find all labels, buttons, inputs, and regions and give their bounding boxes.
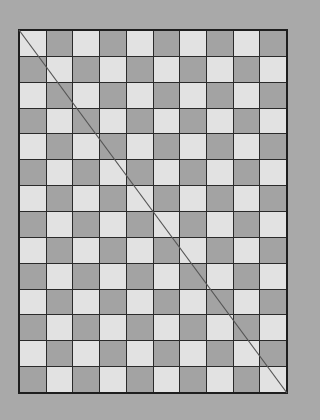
board-cell-r2-c2[interactable] [47,57,73,82]
board-cell-r13-c6[interactable] [154,341,180,366]
board-cell-r6-c3[interactable] [73,160,99,185]
board-cell-r10-c5[interactable] [127,264,153,289]
board-cell-r8-c3[interactable] [73,212,99,237]
board-cell-r10-c3[interactable] [73,264,99,289]
board-cell-r7-c5[interactable] [127,186,153,211]
board-cell-r4-c9[interactable] [234,109,260,134]
board-cell-r5-c4[interactable] [100,134,126,159]
board-cell-r4-c6[interactable] [154,109,180,134]
board-cell-r4-c7[interactable] [180,109,206,134]
board-cell-r11-c9[interactable] [234,290,260,315]
board-cell-r9-c4[interactable] [100,238,126,263]
board-cell-r13-c1[interactable] [20,341,46,366]
board-cell-r8-c5[interactable] [127,212,153,237]
board-cell-r13-c10[interactable] [260,341,286,366]
board-cell-r1-c10[interactable] [260,31,286,56]
board-cell-r5-c2[interactable] [47,134,73,159]
board-cell-r13-c7[interactable] [180,341,206,366]
board-cell-r3-c1[interactable] [20,83,46,108]
board-cell-r1-c8[interactable] [207,31,233,56]
board-cell-r5-c7[interactable] [180,134,206,159]
board-cell-r10-c10[interactable] [260,264,286,289]
board-cell-r9-c7[interactable] [180,238,206,263]
board-cell-r13-c9[interactable] [234,341,260,366]
board-cell-r8-c4[interactable] [100,212,126,237]
board-cell-r2-c10[interactable] [260,57,286,82]
board-cell-r6-c8[interactable] [207,160,233,185]
board-cell-r8-c7[interactable] [180,212,206,237]
board-cell-r5-c6[interactable] [154,134,180,159]
board-cell-r12-c1[interactable] [20,315,46,340]
board-cell-r7-c3[interactable] [73,186,99,211]
board-cell-r12-c10[interactable] [260,315,286,340]
board-cell-r12-c8[interactable] [207,315,233,340]
board-cell-r10-c6[interactable] [154,264,180,289]
board-cell-r3-c10[interactable] [260,83,286,108]
board-cell-r1-c4[interactable] [100,31,126,56]
board-cell-r4-c1[interactable] [20,109,46,134]
board-cell-r12-c5[interactable] [127,315,153,340]
board-cell-r9-c3[interactable] [73,238,99,263]
board-cell-r11-c6[interactable] [154,290,180,315]
board-cell-r3-c2[interactable] [47,83,73,108]
board-cell-r14-c4[interactable] [100,367,126,392]
board-cell-r9-c2[interactable] [47,238,73,263]
board-cell-r5-c10[interactable] [260,134,286,159]
board-cell-r10-c7[interactable] [180,264,206,289]
board-cell-r12-c9[interactable] [234,315,260,340]
board-cell-r6-c4[interactable] [100,160,126,185]
board-cell-r2-c6[interactable] [154,57,180,82]
board-cell-r2-c5[interactable] [127,57,153,82]
board-cell-r6-c7[interactable] [180,160,206,185]
board-cell-r12-c4[interactable] [100,315,126,340]
board-cell-r4-c4[interactable] [100,109,126,134]
board-cell-r2-c4[interactable] [100,57,126,82]
board-cell-r3-c6[interactable] [154,83,180,108]
board-cell-r13-c5[interactable] [127,341,153,366]
board-cell-r4-c10[interactable] [260,109,286,134]
board-cell-r1-c5[interactable] [127,31,153,56]
board-cell-r14-c10[interactable] [260,367,286,392]
board-cell-r8-c6[interactable] [154,212,180,237]
board-cell-r8-c1[interactable] [20,212,46,237]
board-cell-r13-c8[interactable] [207,341,233,366]
board-cell-r11-c3[interactable] [73,290,99,315]
board-cell-r9-c9[interactable] [234,238,260,263]
board-cell-r8-c9[interactable] [234,212,260,237]
board-cell-r3-c4[interactable] [100,83,126,108]
board-cell-r7-c8[interactable] [207,186,233,211]
board-cell-r10-c8[interactable] [207,264,233,289]
board-cell-r6-c5[interactable] [127,160,153,185]
board-cell-r2-c3[interactable] [73,57,99,82]
board-cell-r5-c3[interactable] [73,134,99,159]
board-cell-r1-c9[interactable] [234,31,260,56]
board-cell-r1-c6[interactable] [154,31,180,56]
board-cell-r12-c2[interactable] [47,315,73,340]
board-cell-r14-c9[interactable] [234,367,260,392]
board-cell-r3-c5[interactable] [127,83,153,108]
board-cell-r3-c8[interactable] [207,83,233,108]
board-cell-r8-c2[interactable] [47,212,73,237]
board-cell-r14-c1[interactable] [20,367,46,392]
board-cell-r1-c2[interactable] [47,31,73,56]
board-cell-r9-c6[interactable] [154,238,180,263]
board-cell-r8-c10[interactable] [260,212,286,237]
board-cell-r10-c1[interactable] [20,264,46,289]
board-cell-r4-c8[interactable] [207,109,233,134]
board-cell-r7-c1[interactable] [20,186,46,211]
board-cell-r8-c8[interactable] [207,212,233,237]
board-cell-r14-c5[interactable] [127,367,153,392]
board-cell-r9-c8[interactable] [207,238,233,263]
board-cell-r7-c2[interactable] [47,186,73,211]
board-cell-r6-c2[interactable] [47,160,73,185]
board-cell-r5-c5[interactable] [127,134,153,159]
board-cell-r2-c8[interactable] [207,57,233,82]
board-cell-r6-c10[interactable] [260,160,286,185]
board-cell-r12-c6[interactable] [154,315,180,340]
board-cell-r11-c2[interactable] [47,290,73,315]
board-cell-r6-c6[interactable] [154,160,180,185]
board-cell-r11-c10[interactable] [260,290,286,315]
board-cell-r7-c10[interactable] [260,186,286,211]
board-cell-r10-c2[interactable] [47,264,73,289]
board-cell-r13-c4[interactable] [100,341,126,366]
